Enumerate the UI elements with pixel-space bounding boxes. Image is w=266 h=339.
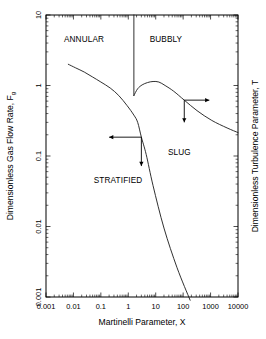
plot-frame	[46, 15, 238, 297]
arrow-down-stratified-head	[139, 162, 143, 166]
y-axis-tick-labels: 0.0010.010.1110	[34, 11, 43, 306]
x-axis-tick-labels: 0.0010.010.1110100100010000	[37, 302, 249, 311]
y-tick-label: 10	[34, 11, 43, 19]
x-tick-label: 10000	[228, 302, 249, 311]
x-tick-label: 1	[126, 302, 130, 311]
arrow-down-slug	[182, 100, 186, 122]
region-labels-group: ANNULARBUBBLYSLUGSTRATIFIED	[64, 35, 191, 185]
y-tick-label-group: 0.1	[34, 151, 43, 161]
arrow-left-annular-head	[109, 135, 113, 139]
y-tick-label: 0.01	[34, 219, 43, 233]
x-axis-title: Martinelli Parameter, X	[99, 317, 186, 327]
arrow-down-slug-head	[182, 118, 186, 122]
y-axis-title-text: Dimensionless Gas Flow Rate, F	[5, 95, 15, 220]
y-tick-label-group: 0.001	[34, 288, 43, 307]
region-label-stratified: STRATIFIED	[94, 176, 143, 185]
y-axis-title: Dimensionless Gas Flow Rate, Fg	[5, 91, 16, 220]
arrow-right-slug-head	[205, 98, 209, 102]
y-tick-label-group: 10	[34, 11, 43, 19]
series-slug-bubbly-T-curve	[134, 81, 238, 132]
axis-ticks	[46, 15, 238, 297]
region-label-bubbly: BUBBLY	[150, 35, 183, 44]
x-tick-label: 10	[152, 302, 160, 311]
region-label-annular: ANNULAR	[64, 35, 104, 44]
x-tick-label: 100	[177, 302, 189, 311]
region-label-slug: SLUG	[168, 148, 191, 157]
y-tick-label: 0.1	[34, 151, 43, 161]
y-tick-label: 0.001	[34, 288, 43, 307]
y-tick-label: 1	[34, 83, 43, 87]
y-tick-label-group: 1	[34, 83, 43, 87]
x-tick-label: 1000	[202, 302, 218, 311]
arrow-left-annular	[109, 135, 141, 139]
arrow-right-slug	[184, 98, 209, 102]
chart-canvas: 0.0010.010.1110100100010000 0.0010.010.1…	[0, 0, 266, 339]
chart-series-group	[68, 15, 238, 300]
y-axis-title-subscript: g	[9, 91, 16, 95]
x-tick-label: 0.1	[96, 302, 106, 311]
y2-axis-title-group: Dimensionless Turbulence Parameter, T	[250, 79, 260, 232]
x-tick-label: 0.01	[66, 302, 80, 311]
y-tick-label-group: 0.01	[34, 219, 43, 233]
flow-regime-map-figure: 0.0010.010.1110100100010000 0.0010.010.1…	[0, 0, 266, 339]
y-axis-title-group: Dimensionless Gas Flow Rate, Fg	[5, 91, 16, 220]
y2-axis-title: Dimensionless Turbulence Parameter, T	[250, 79, 260, 232]
